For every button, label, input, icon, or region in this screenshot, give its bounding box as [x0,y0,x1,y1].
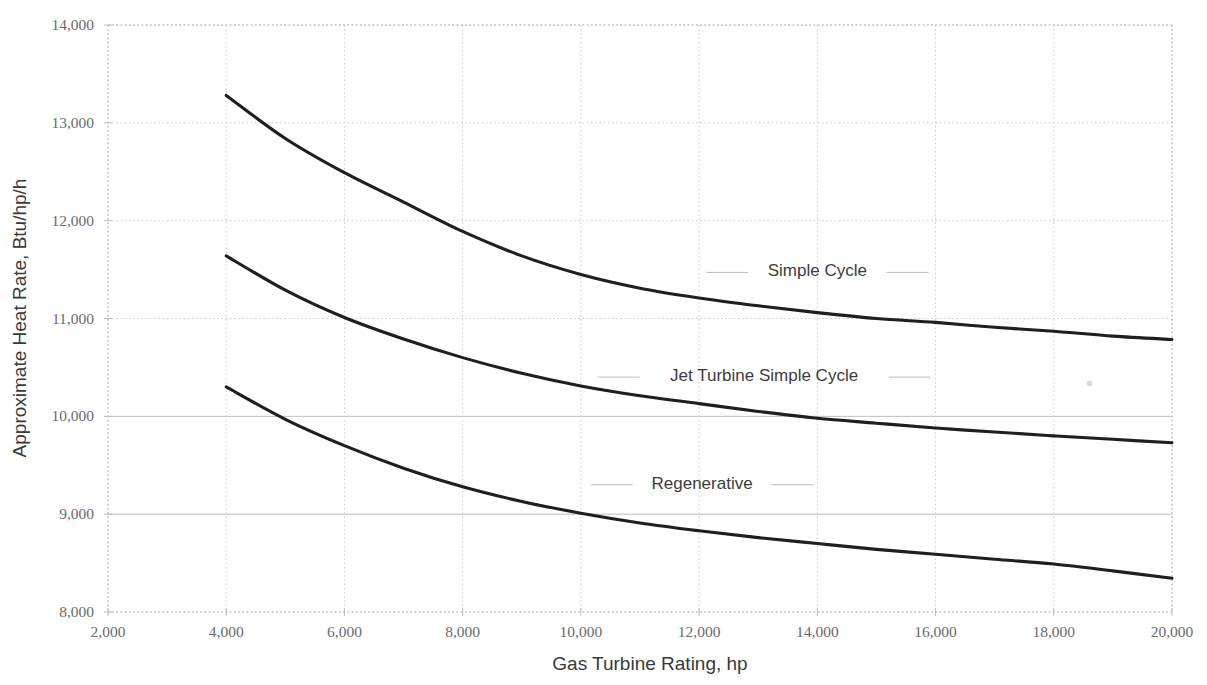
y-axis-title: Approximate Heat Rate, Btu/hp/h [9,179,30,458]
xtick-label-10000: 10,000 [560,623,603,640]
x-axis-tick-labels: 2,0004,0006,0008,00010,00012,00014,00016… [91,623,1194,640]
ytick-label-9000: 9,000 [59,505,94,522]
xtick-label-12000: 12,000 [678,623,721,640]
chart-container: Simple CycleJet Turbine Simple CycleRege… [0,0,1207,685]
xtick-label-8000: 8,000 [445,623,480,640]
scan-artifact-speck [1087,381,1092,386]
xtick-label-2000: 2,000 [91,623,126,640]
heat-rate-chart: Simple CycleJet Turbine Simple CycleRege… [0,0,1207,685]
xtick-label-20000: 20,000 [1151,623,1194,640]
xtick-label-16000: 16,000 [914,623,957,640]
ytick-label-8000: 8,000 [59,603,94,620]
xtick-label-4000: 4,000 [209,623,244,640]
label-regenerative: Regenerative [652,474,753,493]
xtick-label-6000: 6,000 [327,623,362,640]
label-simple-cycle: Simple Cycle [768,261,867,280]
xtick-label-14000: 14,000 [796,623,839,640]
ytick-label-12000: 12,000 [51,212,94,229]
y-axis-tick-labels: 8,0009,00010,00011,00012,00013,00014,000 [51,16,94,620]
x-axis-title: Gas Turbine Rating, hp [552,653,747,674]
label-jet-turbine-simple-cycle: Jet Turbine Simple Cycle [670,366,858,385]
ytick-label-13000: 13,000 [51,114,94,131]
ytick-label-11000: 11,000 [52,310,94,327]
xtick-label-18000: 18,000 [1032,623,1075,640]
axis-tickmarks [104,25,1172,616]
ytick-label-10000: 10,000 [51,407,94,424]
ytick-label-14000: 14,000 [51,16,94,33]
